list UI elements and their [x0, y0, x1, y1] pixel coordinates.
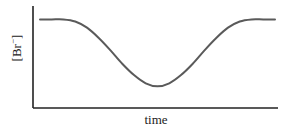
y-axis-label-close: ] — [9, 35, 24, 39]
y-axis-label: [Br−] — [8, 35, 24, 62]
y-axis-label-base: [Br — [9, 43, 24, 61]
bromide-concentration-curve — [40, 19, 275, 86]
x-axis-label: time — [144, 112, 167, 127]
line-chart: time [Br−] — [0, 0, 291, 131]
